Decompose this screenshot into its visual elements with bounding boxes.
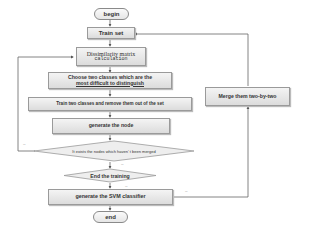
dissimilarity-box: Dissimilarity matrix calculation bbox=[76, 47, 146, 66]
choose-classes-box: Choose two classes which are the most di… bbox=[48, 72, 172, 89]
train-two-classes-box: Train two classes and remove them out of… bbox=[28, 97, 192, 111]
edge-label-end-down: -- bbox=[125, 183, 128, 188]
edge-label-decision-down: -- bbox=[121, 161, 124, 166]
end-terminal: end bbox=[93, 211, 128, 223]
train-set-box: Train set bbox=[87, 27, 135, 39]
generate-svm-box: generate the SVM classifier bbox=[48, 189, 173, 205]
end-training-label: End the training bbox=[62, 168, 158, 183]
choose-line2: most difficult to distinguish bbox=[76, 81, 144, 86]
edge-label-svm-right: -- bbox=[185, 188, 188, 193]
generate-node-box: generate the node bbox=[52, 118, 170, 134]
edge-label-loop-left: -- bbox=[23, 141, 26, 146]
dissimilarity-line2: calculation bbox=[94, 57, 127, 62]
merge-box: Merge them two-by-two bbox=[205, 87, 290, 106]
begin-terminal: begin bbox=[94, 8, 129, 20]
merged-decision-label: It exists the nodes which haven' t been … bbox=[32, 140, 196, 162]
